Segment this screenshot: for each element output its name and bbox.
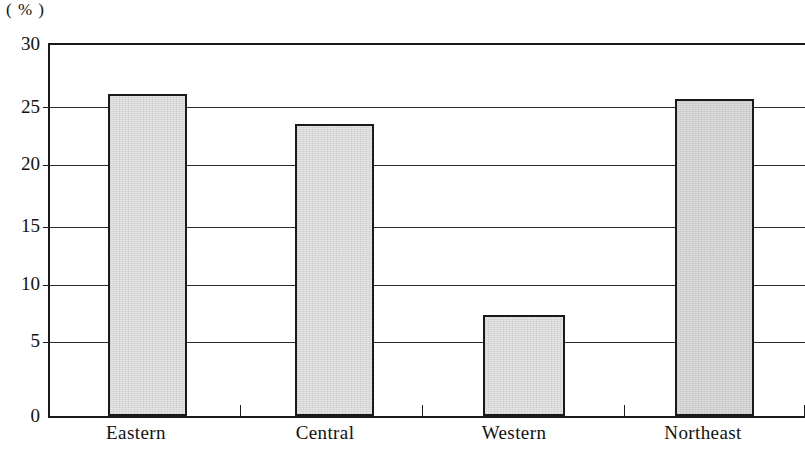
y-tick-label: 20 [0,154,40,173]
y-tick-label: 30 [0,34,40,53]
y-tick-mark-10 [43,285,50,286]
y-tick-label: 10 [0,274,40,293]
bar-western [483,315,565,416]
bar-northeast [675,99,754,416]
x-tick-label-western: Western [424,423,604,442]
bar-central [295,124,374,416]
x-tick-label-eastern: Eastern [46,423,226,442]
bar-eastern [108,94,187,416]
x-tick-label-central: Central [235,423,415,442]
y-tick-mark-20 [43,165,50,166]
y-tick-mark-15 [43,227,50,228]
x-tick-mark-1 [240,405,241,416]
plot-area [48,43,805,418]
x-tick-mark-2 [422,405,423,416]
x-tick-mark-3 [624,405,625,416]
y-axis-tick-labels: 30 25 20 15 10 5 0 [0,0,40,452]
y-tick-label: 15 [0,216,40,235]
y-tick-label: 5 [0,331,40,350]
y-tick-mark-5 [43,342,50,343]
x-axis-tick-labels: Eastern Central Western Northeast [0,421,803,452]
y-tick-mark-25 [43,107,50,108]
y-tick-label: 25 [0,97,40,116]
x-tick-label-northeast: Northeast [613,423,793,442]
